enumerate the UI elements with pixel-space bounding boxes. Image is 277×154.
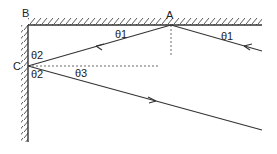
label-theta1-right: θ1 — [221, 31, 233, 42]
label-c: C — [13, 61, 21, 72]
label-theta1-left: θ1 — [115, 29, 127, 40]
reflected-ray — [28, 66, 262, 130]
label-a: A — [166, 10, 173, 21]
top-mirror — [28, 18, 262, 25]
label-theta3: θ3 — [75, 68, 87, 79]
label-theta2-lower: θ2 — [31, 69, 43, 80]
label-b: B — [22, 8, 29, 19]
incident-ray — [171, 25, 262, 51]
ray-diagram: B A C θ1 θ1 θ2 θ2 θ3 — [0, 0, 277, 154]
left-mirror — [21, 25, 28, 142]
label-theta2-upper: θ2 — [31, 50, 43, 61]
